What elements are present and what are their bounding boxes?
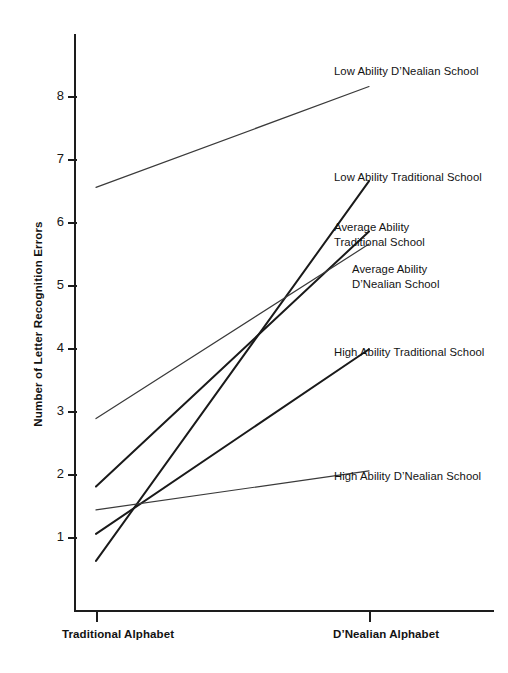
series-line-5 [96,471,369,510]
series-line-0 [96,87,369,188]
series-label-average-ability-dnealian-school: Average Ability D’Nealian School [352,262,439,293]
series-label-high-ability-dnealian-school: High Ability D’Nealian School [334,469,481,484]
chart-figure: Number of Letter Recognition Errors 8 7 … [0,0,508,673]
series-label-average-ability-traditional-school: Average Ability Traditional School [334,220,425,251]
series-label-high-ability-traditional-school: High Ability Traditional School [334,345,484,360]
series-line-3 [96,244,369,419]
series-label-low-ability-traditional-school: Low Ability Traditional School [334,170,482,185]
series-line-4 [96,349,369,534]
series-label-low-ability-dnealian-school: Low Ability D’Nealian School [334,64,479,79]
plot-lines [0,0,508,673]
